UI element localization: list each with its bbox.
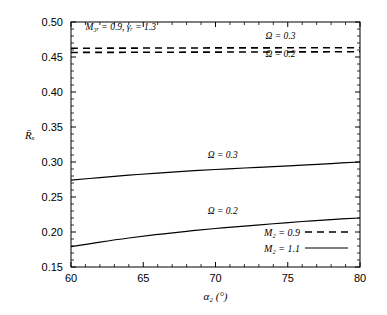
x-axis-title: α₂ (°) (203, 290, 227, 303)
legend-label-0: M₂ = 0.9 (263, 227, 300, 238)
series-line-2 (71, 162, 360, 180)
x-tick-label: 75 (282, 272, 294, 284)
annotation-omega-solid-upper: Ω = 0.3 (208, 150, 238, 160)
annotation-parameters: M₃ᵣ = 0.9, γᵣ = 1.3 (84, 22, 156, 32)
x-tick-label: 80 (354, 272, 366, 284)
x-tick-label: 65 (137, 272, 149, 284)
y-tick-label: 0.25 (42, 191, 63, 203)
x-tick-label: 70 (209, 272, 221, 284)
y-tick-label: 0.35 (42, 121, 63, 133)
chart-figure: 60657075800.150.200.250.300.350.400.450.… (0, 0, 387, 315)
line-chart: 60657075800.150.200.250.300.350.400.450.… (0, 0, 387, 315)
plot-frame (71, 22, 360, 267)
y-axis-title: R̄ₓ (24, 129, 35, 141)
series-line-1 (71, 52, 360, 53)
y-tick-label: 0.20 (42, 226, 63, 238)
annotation-omega-solid-lower: Ω = 0.2 (208, 206, 238, 216)
series-line-0 (71, 48, 360, 49)
legend-label-1: M₂ = 1.1 (263, 243, 300, 254)
x-tick-label: 60 (65, 272, 77, 284)
annotation-omega-dashed-lower: Ω = 0.2 (266, 49, 296, 59)
y-tick-label: 0.15 (42, 261, 63, 273)
y-tick-label: 0.40 (42, 86, 63, 98)
y-tick-label: 0.50 (42, 16, 63, 28)
annotation-omega-dashed-upper: Ω = 0.3 (266, 31, 296, 41)
series-line-3 (71, 218, 360, 247)
y-tick-label: 0.30 (42, 156, 63, 168)
y-tick-label: 0.45 (42, 51, 63, 63)
